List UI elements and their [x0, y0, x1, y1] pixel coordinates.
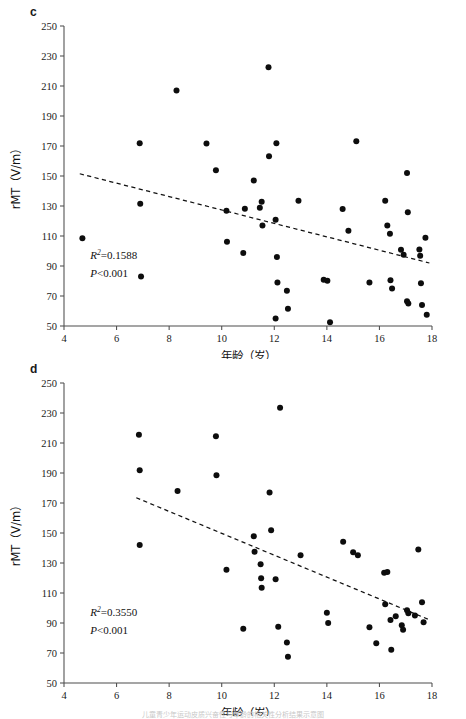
data-point [273, 140, 279, 146]
data-point [175, 488, 181, 494]
data-point [419, 302, 425, 308]
data-point [259, 585, 265, 591]
data-point [259, 223, 265, 229]
x-tick-label: 18 [427, 333, 438, 344]
panel-d-plot: 5070901101301501701902102302504681012141… [0, 357, 466, 716]
data-point [345, 228, 351, 234]
data-point [213, 472, 219, 478]
figure-container: c 50709011013015017019021023025046810121… [0, 0, 466, 719]
data-point [417, 253, 423, 259]
y-tick-label: 190 [41, 111, 57, 122]
y-tick-label: 90 [47, 261, 58, 272]
data-point [174, 88, 180, 94]
y-tick-label: 110 [42, 588, 57, 599]
y-tick-label: 250 [41, 378, 57, 389]
y-tick-label: 210 [41, 81, 57, 92]
data-point [137, 467, 143, 473]
data-point [213, 433, 219, 439]
x-tick-label: 12 [269, 690, 280, 701]
data-point [387, 231, 393, 237]
y-tick-label: 170 [41, 498, 57, 509]
data-point [284, 640, 290, 646]
data-point [355, 552, 361, 558]
x-tick-label: 14 [322, 333, 333, 344]
y-tick-label: 110 [42, 231, 57, 242]
data-point [268, 527, 274, 533]
data-point [327, 319, 333, 325]
y-tick-label: 50 [47, 321, 58, 332]
y-tick-label: 90 [47, 618, 58, 629]
x-tick-label: 16 [374, 690, 385, 701]
data-point [223, 208, 229, 214]
data-point [405, 610, 411, 616]
data-point [340, 206, 346, 212]
data-point [389, 286, 395, 292]
y-tick-label: 150 [41, 528, 57, 539]
data-point [325, 620, 331, 626]
x-tick-label: 8 [167, 333, 172, 344]
data-point [422, 235, 428, 241]
data-point [257, 205, 263, 211]
y-tick-label: 130 [41, 558, 57, 569]
data-point [259, 199, 265, 205]
data-point [382, 601, 388, 607]
data-point [366, 280, 372, 286]
data-point [388, 647, 394, 653]
data-point [240, 626, 246, 632]
data-point [418, 280, 424, 286]
r-squared-annotation: R2=0.1588 [89, 248, 137, 261]
p-value-annotation: P<0.001 [89, 624, 128, 636]
data-point [324, 610, 330, 616]
data-point [275, 624, 281, 630]
y-tick-label: 150 [41, 171, 57, 182]
y-tick-label: 250 [41, 21, 57, 32]
data-point [252, 549, 258, 555]
data-point [340, 539, 346, 545]
x-tick-label: 14 [322, 690, 333, 701]
x-tick-label: 10 [216, 690, 227, 701]
y-axis-title: rMT（V/m） [9, 143, 23, 210]
data-point [284, 288, 290, 294]
x-tick-label: 4 [61, 690, 67, 701]
data-point [136, 432, 142, 438]
data-point [366, 624, 372, 630]
y-tick-label: 230 [41, 51, 57, 62]
y-tick-label: 230 [41, 408, 57, 419]
y-axis-title: rMT（V/m） [9, 500, 23, 567]
data-point [387, 277, 393, 283]
data-point [273, 217, 279, 223]
data-point [415, 547, 421, 553]
y-tick-label: 210 [41, 438, 57, 449]
x-tick-label: 12 [269, 333, 280, 344]
data-point [373, 640, 379, 646]
data-point [273, 316, 279, 322]
data-point [79, 235, 85, 241]
data-point [266, 153, 272, 159]
data-point [285, 654, 291, 660]
trend-line [136, 498, 428, 620]
data-point [295, 198, 301, 204]
data-point [298, 552, 304, 558]
data-point [223, 567, 229, 573]
p-value-annotation: P<0.001 [89, 267, 128, 279]
data-point [404, 170, 410, 176]
data-point [240, 250, 246, 256]
data-point [353, 138, 359, 144]
panel-c: c 50709011013015017019021023025046810121… [0, 0, 466, 359]
data-point [285, 306, 291, 312]
data-point [273, 576, 279, 582]
data-point [213, 167, 219, 173]
data-point [419, 599, 425, 605]
data-point [393, 613, 399, 619]
data-point [274, 254, 280, 260]
bottom-caption: 儿童青少年运动皮质兴奋性与年龄的相关性分析结果示意图 [0, 711, 466, 719]
x-tick-label: 16 [374, 333, 385, 344]
y-tick-label: 170 [41, 141, 57, 152]
data-point [267, 490, 273, 496]
data-point [138, 274, 144, 280]
panel-c-plot: 5070901101301501701902102302504681012141… [0, 0, 466, 359]
data-point [203, 141, 209, 147]
data-point [401, 252, 407, 258]
data-point [266, 64, 272, 70]
data-point [137, 201, 143, 207]
